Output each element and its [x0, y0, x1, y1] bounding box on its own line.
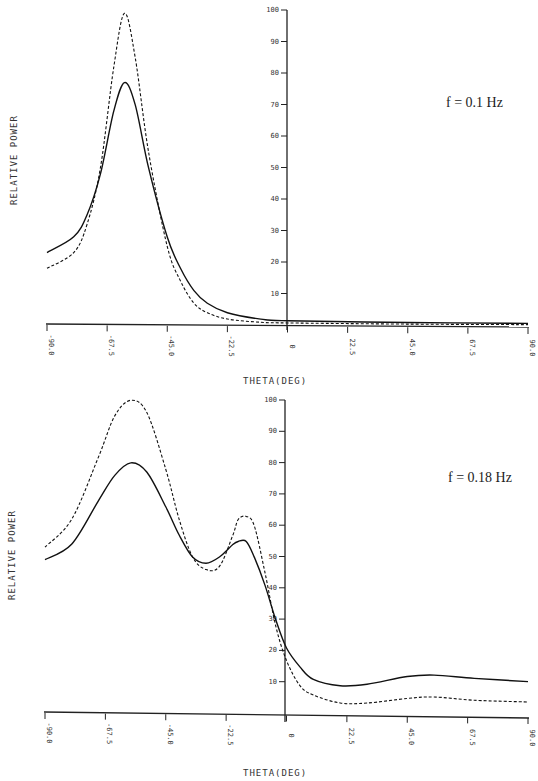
y-ticks: 102030405060708090100: [266, 6, 287, 298]
x-tick-label: -90.0: [47, 334, 55, 355]
x-tick-label: 45.0: [408, 339, 416, 356]
dashed-line-series: [45, 400, 528, 704]
x-tick-label: 22.5: [347, 728, 355, 745]
y-tick-label: 10: [269, 678, 277, 686]
chart-panel-f-0-18hz: -90.0-67.5-45.0-22.5022.545.067.590.0 10…: [7, 396, 536, 778]
chart-panel-f-0-1hz: -90.0-67.5-45.0-22.5022.545.067.590.0 10…: [9, 6, 536, 386]
y-tick-label: 50: [269, 553, 277, 561]
x-tick-label: 67.5: [468, 729, 476, 746]
x-ticks: -90.0-67.5-45.0-22.5022.545.067.590.0: [47, 325, 536, 357]
x-tick-label: 0: [287, 733, 295, 737]
x-tick-label: 90.0: [528, 730, 536, 747]
x-tick-label: 90.0: [528, 340, 536, 357]
x-tick-label: 0: [288, 344, 296, 348]
x-tick-label: -67.5: [107, 335, 115, 356]
x-tick-label: -45.0: [166, 724, 174, 745]
y-tick-label: 40: [271, 195, 279, 203]
y-tick-label: 30: [271, 227, 279, 235]
x-tick-label: -45.0: [167, 335, 175, 356]
x-tick-label: 22.5: [348, 338, 356, 355]
y-tick-label: 100: [264, 396, 277, 404]
y-tick-label: 90: [271, 38, 279, 46]
x-tick-label: 67.5: [468, 339, 476, 356]
y-tick-label: 10: [271, 290, 279, 298]
y-axis-title: RELATIVE POWER: [9, 115, 19, 205]
x-axis-title: THETA(DEG): [243, 376, 307, 386]
y-tick-label: 60: [271, 132, 279, 140]
x-ticks: -90.0-67.5-45.0-22.5022.545.067.590.0: [45, 713, 536, 746]
y-tick-label: 70: [271, 101, 279, 109]
x-tick-label: -90.0: [45, 722, 53, 743]
y-axis-title: RELATIVE POWER: [7, 510, 17, 600]
frequency-annotation: f = 0.18 Hz: [448, 470, 512, 485]
y-ticks: 102030405060708090100: [264, 396, 285, 686]
x-tick-label: -67.5: [105, 723, 113, 744]
y-tick-label: 40: [269, 584, 277, 592]
figure: -90.0-67.5-45.0-22.5022.545.067.590.0 10…: [0, 0, 538, 781]
y-tick-label: 80: [269, 459, 277, 467]
y-tick-label: 50: [271, 164, 279, 172]
solid-line-series: [45, 463, 528, 686]
x-tick-label: -22.5: [227, 336, 235, 357]
x-tick-label: -22.5: [226, 724, 234, 745]
y-tick-label: 80: [271, 69, 279, 77]
frequency-annotation: f = 0.1 Hz: [446, 95, 503, 110]
y-tick-label: 20: [271, 258, 279, 266]
y-tick-label: 70: [269, 490, 277, 498]
y-tick-label: 20: [269, 646, 277, 654]
y-tick-label: 90: [269, 427, 277, 435]
y-tick-label: 60: [269, 521, 277, 529]
y-tick-label: 100: [266, 6, 279, 14]
x-tick-label: 45.0: [407, 728, 415, 745]
x-axis-title: THETA(DEG): [243, 768, 307, 778]
